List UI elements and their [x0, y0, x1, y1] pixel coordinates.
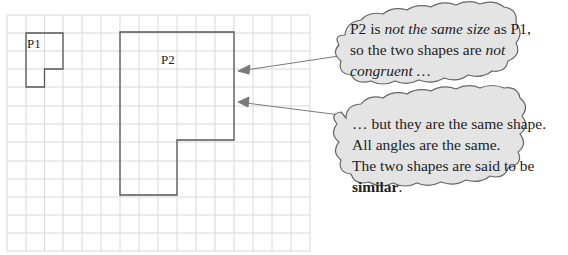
callout-2-line-1: … but they are the same shape. — [352, 113, 546, 134]
callout-text-2: … but they are the same shape. All angle… — [352, 113, 546, 197]
shape-label-p2: P2 — [161, 52, 175, 68]
callout-1-line-3: congruent … — [350, 60, 531, 81]
callout-1-line-2: so the two shapes are not — [350, 39, 531, 60]
shape-label-p1: P1 — [27, 36, 41, 52]
callout-1-line-1: P2 is not the same size as P1, — [350, 18, 531, 39]
callout-2-line-3: The two shapes are said to be — [352, 155, 546, 176]
callout-2-line-4: similar. — [352, 176, 546, 197]
callout-text-1: P2 is not the same size as P1, so the tw… — [350, 18, 531, 81]
callout-2-line-2: All angles are the same. — [352, 134, 546, 155]
grid — [7, 15, 310, 251]
